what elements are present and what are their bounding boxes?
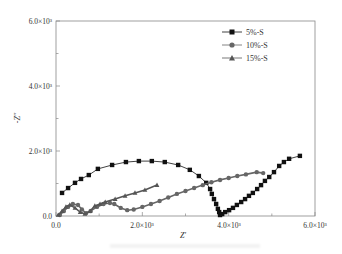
- square-marker-icon: [212, 197, 216, 201]
- legend: 5%-S 10%-S 15%-S: [222, 28, 268, 63]
- square-marker-icon: [137, 159, 141, 163]
- circle-marker-icon: [183, 189, 187, 193]
- square-marker-icon: [197, 174, 201, 178]
- square-marker-icon: [223, 210, 227, 214]
- axis-ticks: [56, 21, 315, 216]
- x-tick-label-1: 2.0×10³: [130, 221, 154, 230]
- circle-marker-icon: [76, 203, 80, 207]
- square-marker-icon: [235, 203, 239, 207]
- square-marker-icon: [79, 177, 83, 181]
- square-marker-icon: [60, 191, 64, 195]
- x-tick-label-3: 6.0×10³: [303, 221, 327, 230]
- y-axis-label: -Z'': [13, 112, 22, 123]
- circle-marker-icon: [229, 42, 234, 47]
- square-marker-icon: [272, 170, 276, 174]
- circle-marker-icon: [261, 171, 265, 175]
- x-tick-label-2: 4.0×10³: [217, 221, 241, 230]
- legend-label: 10%-S: [246, 41, 268, 50]
- square-marker-icon: [255, 187, 259, 191]
- square-marker-icon: [214, 202, 218, 206]
- circle-marker-icon: [175, 192, 179, 196]
- series-layer: [56, 154, 302, 218]
- circle-marker-icon: [255, 170, 259, 174]
- square-marker-icon: [210, 192, 214, 196]
- nyquist-chart: 0.0 2.0×10³ 4.0×10³ 6.0×10³ 0.0 2.0×10³ …: [0, 0, 342, 254]
- circle-marker-icon: [119, 206, 123, 210]
- y-tick-label-0: 0.0: [43, 212, 53, 221]
- square-marker-icon: [176, 163, 180, 167]
- circle-marker-icon: [140, 205, 144, 209]
- circle-marker-icon: [132, 207, 136, 211]
- circle-marker-icon: [112, 202, 116, 206]
- y-tick-label-3: 6.0×10³: [29, 17, 53, 26]
- x-axis-label: Z': [180, 231, 186, 240]
- legend-label: 5%-S: [246, 28, 264, 37]
- circle-marker-icon: [125, 208, 129, 212]
- square-marker-icon: [231, 206, 235, 210]
- square-marker-icon: [239, 200, 243, 204]
- circle-marker-icon: [166, 195, 170, 199]
- triangle-marker-icon: [155, 183, 160, 187]
- circle-marker-icon: [209, 180, 213, 184]
- circle-marker-icon: [226, 176, 230, 180]
- y-tick-label-1: 2.0×10³: [29, 147, 53, 156]
- square-marker-icon: [150, 159, 154, 163]
- legend-label: 15%-S: [246, 54, 268, 63]
- square-marker-icon: [298, 154, 302, 158]
- circle-marker-icon: [149, 202, 153, 206]
- square-marker-icon: [243, 197, 247, 201]
- blurred-caption: [110, 244, 260, 248]
- square-marker-icon: [227, 208, 231, 212]
- square-marker-icon: [110, 163, 114, 167]
- x-tick-label-0: 0.0: [51, 221, 61, 230]
- plot-frame: [56, 21, 315, 216]
- legend-item-5pct: 5%-S: [222, 28, 264, 37]
- circle-marker-icon: [157, 199, 161, 203]
- series-15pct-s: [56, 183, 160, 217]
- circle-marker-icon: [235, 174, 239, 178]
- legend-item-15pct: 15%-S: [222, 54, 268, 63]
- square-marker-icon: [230, 30, 235, 35]
- tick-labels: 0.0 2.0×10³ 4.0×10³ 6.0×10³ 0.0 2.0×10³ …: [29, 17, 328, 230]
- circle-marker-icon: [201, 183, 205, 187]
- circle-marker-icon: [192, 186, 196, 190]
- legend-item-10pct: 10%-S: [222, 41, 268, 50]
- circle-marker-icon: [218, 178, 222, 182]
- square-marker-icon: [247, 194, 251, 198]
- square-marker-icon: [208, 187, 212, 191]
- square-marker-icon: [287, 157, 291, 161]
- square-marker-icon: [163, 160, 167, 164]
- y-tick-label-2: 4.0×10³: [29, 82, 53, 91]
- square-marker-icon: [251, 191, 255, 195]
- circle-marker-icon: [244, 172, 248, 176]
- square-marker-icon: [259, 183, 263, 187]
- square-marker-icon: [66, 186, 70, 190]
- square-marker-icon: [267, 175, 271, 179]
- square-marker-icon: [282, 160, 286, 164]
- square-marker-icon: [87, 173, 91, 177]
- square-marker-icon: [96, 167, 100, 171]
- square-marker-icon: [73, 181, 77, 185]
- square-marker-icon: [188, 168, 192, 172]
- square-marker-icon: [277, 164, 281, 168]
- square-marker-icon: [263, 179, 267, 183]
- square-marker-icon: [124, 160, 128, 164]
